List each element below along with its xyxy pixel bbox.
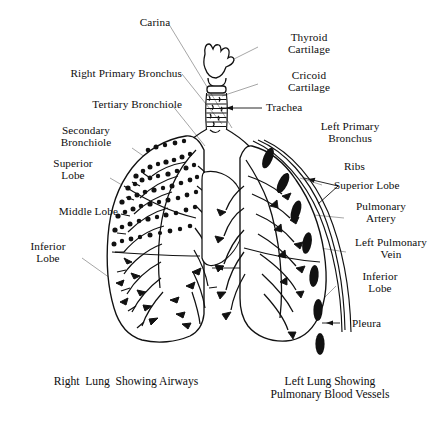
label-ribs: Ribs [344,160,414,172]
label-superior-lobe-left: Superior Lobe [30,157,116,182]
label-right-primary-bronchus: Right Primary Bronchus [10,67,182,79]
label-middle-lobe: Middle Lobe [12,205,118,217]
label-superior-lobe-right: Superior Lobe [334,179,442,191]
label-secondary-bronchiole: Secondary Bronchiole [38,124,134,149]
label-carina: Carina [100,16,210,28]
caption-right-lung: Right Lung Showing Airways [28,375,224,388]
label-inferior-lobe-right: Inferior Lobe [344,270,416,295]
label-tertiary-bronchiole: Tertiary Bronchiole [30,98,182,110]
label-pulmonary-artery: Pulmonary Artery [338,200,424,225]
label-thyroid-cartilage: Thyroid Cartilage [268,31,350,56]
caption-left-lung: Left Lung Showing Pulmonary Blood Vessel… [232,375,428,402]
label-left-primary-bronchus: Left Primary Bronchus [298,120,402,145]
label-trachea: Trachea [266,101,356,113]
label-cricoid-cartilage: Cricoid Cartilage [268,69,350,94]
label-pleura: Pleura [352,317,422,329]
label-inferior-lobe-left: Inferior Lobe [8,240,88,265]
label-left-pulmonary-vein: Left Pulmonary Vein [340,236,442,261]
lung-anatomy-diagram: Carina Right Primary Bronchus Tertiary B… [0,0,442,424]
